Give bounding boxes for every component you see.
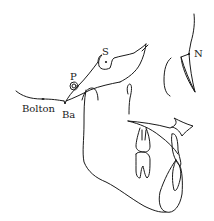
clivus-line (65, 62, 98, 103)
pterygoid-fissure (127, 84, 131, 114)
sella-point (105, 61, 107, 63)
label-basion: Ba (62, 109, 75, 120)
palate-lower (128, 121, 178, 154)
basion-point (64, 102, 66, 104)
clivus-lower (66, 82, 120, 101)
label-sella: S (102, 46, 109, 57)
porion-ring-outer (70, 82, 78, 90)
upper-incisor (172, 134, 181, 166)
occipital-contour (16, 91, 64, 101)
porion-ring-inner (72, 84, 76, 88)
upper-molar (136, 128, 150, 152)
lower-molar (136, 152, 150, 178)
planum-line (120, 44, 146, 82)
nasal-inner (181, 57, 195, 92)
label-nasion: N (194, 48, 203, 59)
palatal-plane (128, 118, 193, 136)
lower-incisor (173, 160, 181, 191)
label-porion: P (70, 71, 77, 82)
nasal-bone (181, 54, 195, 92)
orbit-contour (164, 58, 171, 96)
cephalometric-tracing: S N P Bolton Ba (0, 0, 214, 221)
symphysis (159, 160, 182, 212)
label-bolton: Bolton (22, 103, 56, 114)
nasion-point (188, 53, 190, 55)
bolton-point (42, 98, 44, 100)
ramus-posterior (83, 90, 166, 212)
